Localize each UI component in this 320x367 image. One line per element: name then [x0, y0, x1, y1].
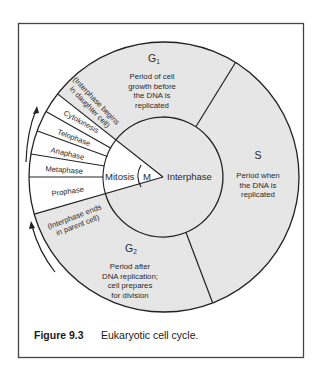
interphase-label: Interphase: [167, 171, 212, 182]
g2-description-1: Period after: [110, 262, 151, 271]
s-label: S: [254, 149, 261, 161]
mitosis-label: Mitosis: [105, 171, 135, 182]
g1-description-2: growth before: [128, 82, 176, 91]
g1-description-3: the DNA is: [134, 91, 171, 100]
s-description-2: the DNA is: [240, 181, 277, 190]
g2-description-3: cell prepares: [108, 281, 153, 290]
caption-text: Eukaryotic cell cycle.: [101, 329, 198, 341]
m-label: M: [143, 171, 151, 182]
caption-number: Figure 9.3: [34, 329, 84, 341]
g1-description-1: Period of cell: [129, 72, 174, 81]
g1-description-4: replicated: [135, 101, 169, 110]
s-description-1: Period when: [236, 171, 279, 180]
g2-description-2: DNA replication;: [102, 272, 158, 281]
cell-cycle-figure: G1 Period of cell growth before the DNA …: [0, 0, 320, 367]
g2-description-4: for division: [111, 291, 148, 300]
s-description-3: replicated: [241, 190, 275, 199]
